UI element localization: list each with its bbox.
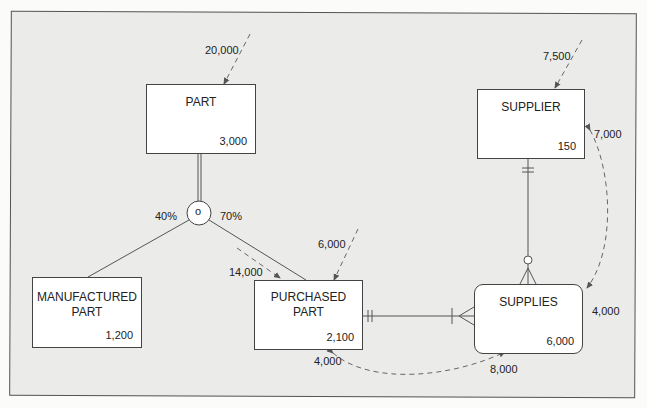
access-label-purchased-supplies-right: 8,000: [490, 363, 518, 375]
entity-purchased-part[interactable]: PURCHASED PART 2,100: [254, 280, 363, 350]
entity-volume: 1,200: [105, 329, 133, 341]
access-label-supplier-supplies-top: 7,000: [594, 128, 622, 140]
subtype-symbol: o: [195, 205, 201, 217]
access-label-supplier-supplies-bottom: 4,000: [592, 305, 620, 317]
subtype-line-manufactured: [88, 220, 189, 277]
entity-name: MANUFACTURED PART: [33, 290, 141, 320]
entity-volume: 150: [558, 140, 576, 152]
access-label-part-to-purchased: 14,000: [229, 266, 263, 278]
entity-name: SUPPLIES: [475, 295, 582, 310]
subtype-left-percent: 40%: [155, 210, 177, 222]
entity-manufactured-part[interactable]: MANUFACTURED PART 1,200: [32, 277, 142, 348]
access-label-supplier-in: 7,500: [543, 50, 571, 62]
access-label-part-in: 20,000: [205, 44, 239, 56]
access-label-purchased-supplies-left: 4,000: [314, 355, 342, 367]
access-label-purchased-in: 6,000: [318, 238, 346, 250]
purchased-supplies-relationship: [362, 307, 474, 325]
entity-volume: 3,000: [219, 135, 247, 147]
entity-supplies[interactable]: SUPPLIES 6,000: [474, 284, 583, 354]
entity-name: PURCHASED PART: [255, 290, 362, 320]
entity-name: PART: [147, 95, 255, 110]
entity-name: SUPPLIER: [478, 100, 584, 115]
supplier-supplies-relationship: [520, 159, 536, 284]
entity-part[interactable]: PART 3,000: [146, 84, 256, 154]
entity-volume: 6,000: [546, 335, 574, 347]
part-to-subtype-line: [198, 153, 201, 201]
subtype-right-percent: 70%: [220, 210, 242, 222]
entity-volume: 2,100: [326, 331, 354, 343]
diagram-canvas: PART 3,000 SUPPLIER 150 MANUFACTURED PAR…: [0, 0, 647, 408]
entity-supplier[interactable]: SUPPLIER 150: [477, 89, 585, 159]
